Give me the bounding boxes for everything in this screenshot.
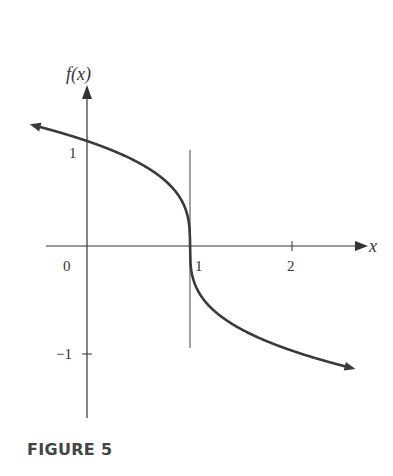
figure-caption: FIGURE 5 bbox=[27, 440, 112, 459]
y-tick-label-neg1: −1 bbox=[56, 346, 72, 362]
function-curve bbox=[36, 126, 350, 368]
y-axis-arrow-icon bbox=[82, 85, 92, 99]
x-tick-label-1: 1 bbox=[195, 258, 203, 274]
x-tick-label-2: 2 bbox=[287, 258, 295, 274]
function-graph: f(x) x 0 1 2 1 −1 bbox=[0, 0, 393, 476]
curve-left-arrow-icon bbox=[30, 123, 42, 132]
x-axis-arrow-icon bbox=[355, 241, 368, 251]
x-axis-label: x bbox=[368, 236, 377, 256]
x-tick-label-0: 0 bbox=[63, 258, 71, 274]
y-axis-label: f(x) bbox=[66, 64, 91, 85]
curve-right-arrow-icon bbox=[344, 362, 356, 371]
y-tick-label-1: 1 bbox=[69, 145, 77, 161]
